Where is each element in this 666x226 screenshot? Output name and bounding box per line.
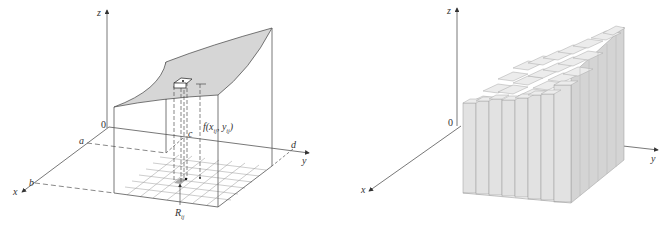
column-1 (463, 103, 476, 193)
y-axis-label: y (301, 155, 307, 166)
base-front-edge (114, 193, 218, 207)
x-axis (22, 127, 109, 192)
sample-point-top (182, 80, 184, 82)
base-edge-a (87, 143, 166, 153)
z-axis-label: z (96, 7, 101, 18)
origin-label: 0 (101, 119, 106, 130)
x-axis (369, 126, 461, 191)
surface-volume-diagram: z 0 x y a b c d (0, 0, 333, 226)
column-7 (541, 94, 554, 200)
sample-point-base (185, 178, 187, 180)
column-6 (528, 95, 541, 199)
column-3 (489, 99, 502, 195)
base-edge-c (166, 138, 183, 153)
y-axis-label: y (650, 153, 656, 164)
column-top-front (174, 83, 186, 88)
column-5 (515, 98, 528, 197)
surface-f (114, 28, 272, 107)
x-axis-label: x (360, 184, 366, 195)
subrect-label: Rij (174, 207, 185, 220)
label-d: d (291, 139, 297, 150)
label-b: b (29, 177, 34, 188)
base-edge-d (272, 149, 293, 166)
z-axis-label: z (446, 5, 451, 16)
column-2 (476, 101, 489, 194)
column-4 (502, 100, 515, 196)
base-edge-b (35, 183, 114, 193)
height-arrow-end (199, 177, 201, 179)
x-axis-label: x (12, 186, 18, 197)
surface-diagram-svg: z 0 x y a b c d (0, 0, 333, 226)
y-axis (623, 146, 658, 150)
column-8 (554, 85, 571, 202)
origin-label: 0 (448, 117, 453, 128)
boxes-front-columns (463, 85, 571, 202)
riemann-boxes-diagram: z 0 x y (333, 0, 666, 226)
boxes-diagram-svg: z 0 x y (333, 0, 666, 226)
label-a: a (79, 135, 84, 146)
label-c: c (188, 128, 193, 139)
